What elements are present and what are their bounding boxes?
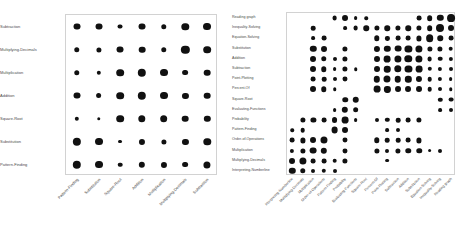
left-x-label-text: Substitution xyxy=(83,177,101,195)
left-x-label-text: Pattern-Finding xyxy=(56,177,79,200)
left-x-axis-labels: Pattern-FindingSubstitutionSquare-RootAd… xyxy=(0,0,232,233)
left-x-label-text: Addition xyxy=(131,177,145,191)
left-x-label: Addition xyxy=(141,167,155,181)
right-x-axis-labels: Interpreting-NumberlineMultiplying-Decim… xyxy=(232,0,465,233)
left-x-label-text: Subtraction xyxy=(192,177,210,195)
right-chart-panel: Reading graphInequality-SolvingEquation-… xyxy=(232,0,465,233)
figure-canvas: SubtractionMultiplying-DecimalsMultiplic… xyxy=(0,0,465,233)
left-x-label: Subtraction xyxy=(206,163,224,181)
left-x-label-text: Square-Root xyxy=(103,177,123,197)
left-x-label: Square-Root xyxy=(119,161,139,181)
left-x-label: Substitution xyxy=(98,162,116,180)
left-x-label: Pattern-Finding xyxy=(76,158,99,181)
left-x-label: Multiplication xyxy=(163,161,183,181)
left-chart-panel: SubtractionMultiplying-DecimalsMultiplic… xyxy=(0,0,232,233)
left-x-label-text: Multiplication xyxy=(146,177,166,197)
